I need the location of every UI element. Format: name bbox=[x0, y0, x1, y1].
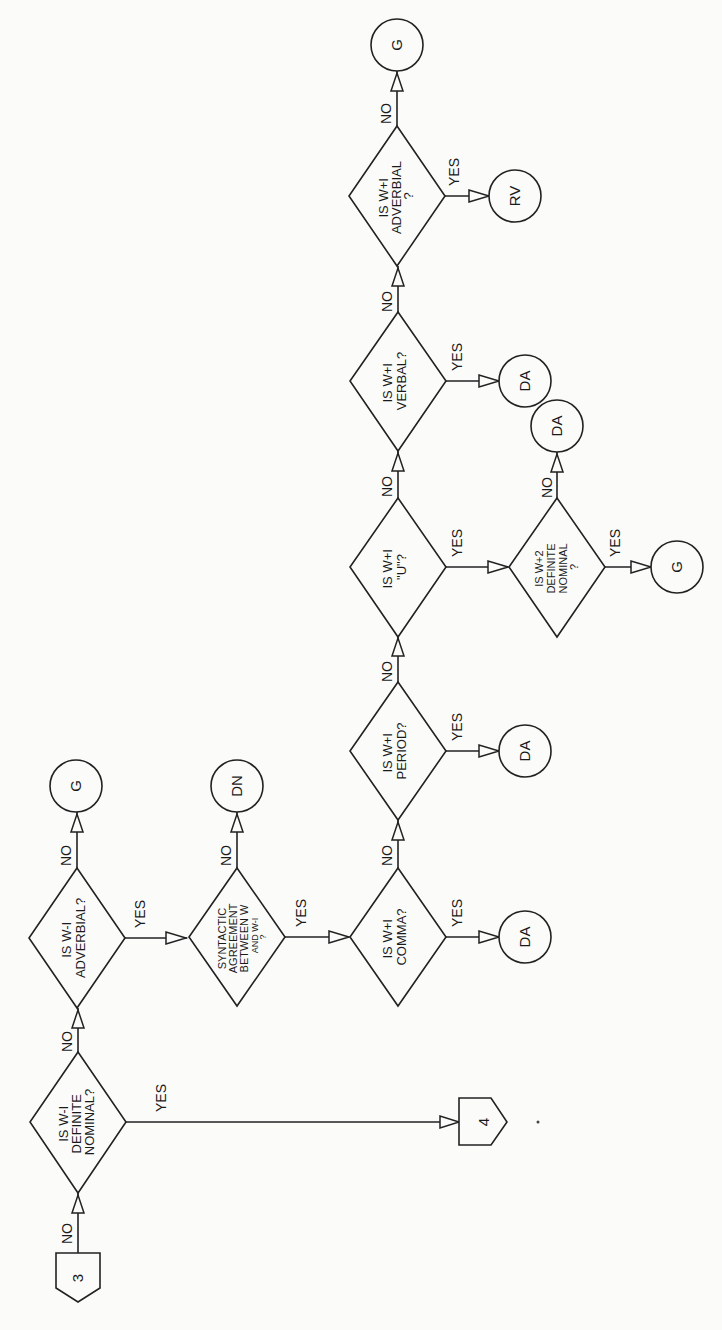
svg-text:IS W+I VERBAL?: IS W+I VERBAL? bbox=[380, 352, 409, 411]
arrowhead-icon bbox=[71, 814, 83, 832]
edge-label-yes: YES bbox=[446, 158, 462, 186]
edge-label-yes: YES bbox=[607, 529, 623, 557]
terminal-rv: RV bbox=[489, 170, 541, 222]
decision-w+1-verbal: IS W+I VERBAL? bbox=[350, 312, 446, 451]
exit-connector-4: 4 bbox=[459, 1098, 507, 1145]
flowchart-svg: 3 NO IS W-I DEFINITE NOMINAL? YES 4 NO I… bbox=[0, 0, 722, 1330]
connector-label: 4 bbox=[475, 1118, 492, 1126]
decision-syntactic-agreement: SYNTACTIC AGREEMENT BETWEEN W AND W-I ? bbox=[189, 868, 285, 1006]
decision-w+2-definite-nominal: IS W+2 DEFINITE NOMINAL ? bbox=[509, 498, 605, 637]
terminal-da-w2: DA bbox=[531, 400, 583, 452]
arrowhead-icon bbox=[469, 190, 489, 202]
arrowhead-icon bbox=[329, 931, 349, 943]
arrowhead-icon bbox=[392, 453, 404, 471]
edge-label-no: NO bbox=[218, 845, 234, 866]
flowchart-canvas: 3 NO IS W-I DEFINITE NOMINAL? YES 4 NO I… bbox=[0, 0, 722, 1330]
svg-text:DA: DA bbox=[516, 741, 533, 762]
svg-text:RV: RV bbox=[506, 186, 523, 207]
edge-label-no: NO bbox=[379, 661, 395, 682]
edge-label-no: NO bbox=[539, 477, 555, 498]
decision-w-1-adverbial: IS W-I ADVERBIAL? bbox=[29, 868, 125, 1008]
connector-label: 3 bbox=[69, 1274, 86, 1282]
edge-label-yes: YES bbox=[153, 1084, 169, 1112]
edge-label-yes: YES bbox=[449, 899, 465, 927]
decision-w+1-comma: IS W+I COMMA? bbox=[350, 868, 446, 1006]
edge-label-no: NO bbox=[379, 845, 395, 866]
edge-label-no: NO bbox=[379, 476, 395, 497]
decision-w+1-adverbial: IS W+I ADVERBIAL ? bbox=[349, 126, 445, 266]
svg-text:G: G bbox=[668, 561, 685, 573]
arrowhead-icon bbox=[166, 932, 186, 944]
arrowhead-icon bbox=[479, 375, 499, 387]
edge-label-no: NO bbox=[379, 291, 395, 312]
stray-dot bbox=[537, 1121, 540, 1124]
terminal-dn: DN bbox=[211, 760, 263, 812]
terminal-g-w2: G bbox=[651, 541, 703, 593]
edge-label-yes: YES bbox=[132, 900, 148, 928]
arrowhead-icon bbox=[488, 561, 508, 573]
arrowhead-icon bbox=[231, 814, 243, 832]
decision-w+1-u: IS W+I "U"? bbox=[350, 498, 446, 637]
terminal-da-period: DA bbox=[499, 725, 551, 777]
arrowhead-icon bbox=[551, 454, 563, 472]
edge-label-no: NO bbox=[378, 103, 394, 124]
arrowhead-icon bbox=[479, 745, 499, 757]
terminal-g-end: G bbox=[371, 19, 423, 71]
edge-label-yes: YES bbox=[449, 343, 465, 371]
edge-label-no: NO bbox=[59, 1223, 75, 1244]
svg-text:G: G bbox=[388, 39, 405, 51]
terminal-da-comma: DA bbox=[499, 911, 551, 963]
arrowhead-icon bbox=[631, 561, 651, 573]
edge-label-no: NO bbox=[59, 1031, 75, 1052]
svg-text:DA: DA bbox=[516, 371, 533, 392]
edge-label-yes: YES bbox=[293, 899, 309, 927]
arrowhead-icon bbox=[391, 73, 403, 91]
svg-text:G: G bbox=[67, 780, 84, 792]
arrowhead-icon bbox=[479, 931, 499, 943]
arrowhead-icon bbox=[440, 1116, 459, 1128]
arrowhead-icon bbox=[392, 638, 404, 656]
svg-text:IS W+I COMMA?: IS W+I COMMA? bbox=[380, 908, 409, 965]
decision-w+1-period: IS W+I PERIOD? bbox=[350, 682, 446, 820]
edge-label-yes: YES bbox=[449, 529, 465, 557]
svg-text:DN: DN bbox=[228, 775, 245, 797]
entry-connector-3: 3 bbox=[56, 1253, 100, 1302]
terminal-da-verbal: DA bbox=[499, 355, 551, 407]
decision-w-1-definite-nominal: IS W-I DEFINITE NOMINAL? bbox=[30, 1052, 126, 1193]
svg-text:DA: DA bbox=[548, 416, 565, 437]
svg-text:DA: DA bbox=[516, 927, 533, 948]
edge-label-no: NO bbox=[58, 845, 74, 866]
arrowhead-icon bbox=[72, 1195, 84, 1213]
arrowhead-icon bbox=[392, 268, 404, 286]
edge-label-yes: YES bbox=[449, 713, 465, 741]
arrowhead-icon bbox=[392, 822, 404, 840]
arrowhead-icon bbox=[72, 1010, 84, 1028]
terminal-g-1: G bbox=[50, 760, 102, 812]
svg-text:IS W+I PERIOD?: IS W+I PERIOD? bbox=[380, 722, 409, 779]
